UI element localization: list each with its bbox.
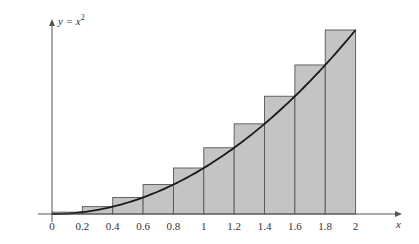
- x-tick-label: 1.4: [258, 220, 272, 232]
- x-axis-arrow-icon: [395, 211, 402, 217]
- x-tick-label: 0.6: [136, 220, 150, 232]
- curve-label: y = x2: [57, 13, 85, 27]
- x-tick-label: 2: [353, 220, 359, 232]
- x-axis-label: x: [395, 218, 401, 230]
- riemann-rectangle: [325, 30, 355, 214]
- x-tick-label: 1.6: [288, 220, 302, 232]
- x-tick-label: 0.4: [106, 220, 120, 232]
- x-tick-label: 1.8: [318, 220, 332, 232]
- riemann-rectangles: [52, 30, 356, 214]
- riemann-rectangle: [265, 96, 295, 214]
- riemann-rectangle: [295, 65, 325, 214]
- riemann-sum-chart: y = x2 x 00.20.40.60.811.21.41.61.82: [0, 0, 419, 244]
- riemann-rectangle: [173, 168, 203, 214]
- x-tick-label: 1.2: [227, 220, 241, 232]
- riemann-rectangle: [143, 185, 173, 214]
- x-tick-label: 1: [201, 220, 207, 232]
- y-axis-arrow-icon: [49, 19, 55, 26]
- x-tick-label: 0.2: [75, 220, 89, 232]
- x-tick-label: 0: [49, 220, 55, 232]
- x-tick-labels: 00.20.40.60.811.21.41.61.82: [49, 220, 358, 232]
- x-tick-label: 0.8: [167, 220, 181, 232]
